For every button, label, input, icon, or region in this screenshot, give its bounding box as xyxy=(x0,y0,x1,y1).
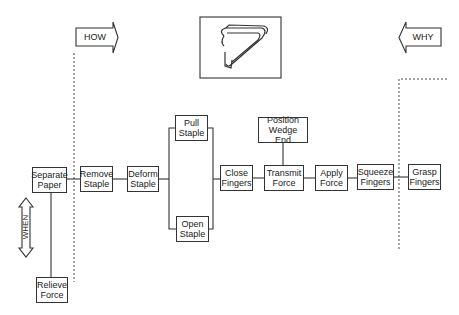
when-label: WHEN xyxy=(21,211,31,243)
function-relieve-force: Relieve Force xyxy=(36,277,68,303)
staple-remover-icon xyxy=(221,25,267,68)
function-close-fingers: Close Fingers xyxy=(220,165,253,191)
function-deform-staple: Deform Staple xyxy=(127,166,159,192)
function-label: Position Wedge End xyxy=(260,115,306,145)
function-open-staple: Open Staple xyxy=(176,216,209,242)
function-position-wedge-end: Position Wedge End xyxy=(258,117,308,143)
function-pull-staple: Pull Staple xyxy=(175,115,208,141)
function-remove-staple: Remove Staple xyxy=(80,166,113,192)
staple-image-frame xyxy=(200,17,281,78)
function-label: Remove Staple xyxy=(80,169,114,189)
function-grasp-fingers: Grasp Fingers xyxy=(408,164,441,190)
fast-diagram: HOW WHY WHEN Separate Paper Remove Stapl… xyxy=(0,0,459,315)
why-label: WHY xyxy=(406,28,440,46)
function-label: Squeeze Fingers xyxy=(358,167,394,187)
function-label: Grasp Fingers xyxy=(410,167,440,187)
function-label: Deform Staple xyxy=(128,169,158,189)
function-label: Close Fingers xyxy=(222,168,252,188)
function-label: Open Staple xyxy=(180,219,206,239)
function-transmit-force: Transmit Force xyxy=(264,165,304,191)
function-squeeze-fingers: Squeeze Fingers xyxy=(357,164,394,190)
function-label: Apply Force xyxy=(320,168,343,188)
function-label: Separate Paper xyxy=(31,170,68,190)
function-apply-force: Apply Force xyxy=(315,165,348,191)
how-label: HOW xyxy=(78,28,112,46)
function-label: Relieve Force xyxy=(37,280,67,300)
function-label: Transmit Force xyxy=(267,168,302,188)
function-label: Pull Staple xyxy=(179,118,205,138)
function-separate-paper: Separate Paper xyxy=(32,167,67,193)
diagram-connectors xyxy=(0,0,459,315)
